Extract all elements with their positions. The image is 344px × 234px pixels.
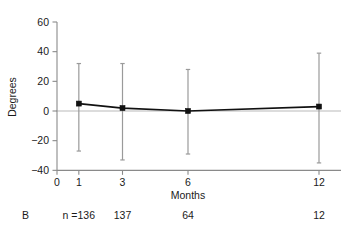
x-axis-title: Months: [171, 189, 205, 201]
sample-size-label: n =136: [63, 209, 96, 221]
y-tick-label: −40: [31, 164, 49, 176]
x-tick-label: 6: [185, 176, 191, 188]
data-point-marker: [317, 104, 322, 109]
y-tick-label: 20: [37, 75, 49, 87]
data-point-marker: [186, 109, 191, 114]
x-tick-label: 1: [76, 176, 82, 188]
series-line: [79, 104, 319, 111]
error-bar-chart: 6040200−20−40013612MonthsDegreesBn =1361…: [0, 0, 344, 234]
y-tick-label: 40: [37, 45, 49, 57]
x-tick-label: 12: [313, 176, 325, 188]
y-tick-label: 60: [37, 16, 49, 28]
x-tick-label: 0: [54, 176, 60, 188]
panel-label: B: [22, 209, 29, 221]
data-point-marker: [120, 106, 125, 111]
sample-size-label: 12: [313, 209, 325, 221]
sample-size-label: 137: [114, 209, 132, 221]
figure-panel-b: 6040200−20−40013612MonthsDegreesBn =1361…: [0, 0, 344, 234]
x-tick-label: 3: [120, 176, 126, 188]
y-tick-label: −20: [31, 134, 49, 146]
data-point-marker: [76, 101, 81, 106]
y-axis-title: Degrees: [6, 77, 18, 117]
y-tick-label: 0: [43, 105, 49, 117]
sample-size-label: 64: [182, 209, 194, 221]
